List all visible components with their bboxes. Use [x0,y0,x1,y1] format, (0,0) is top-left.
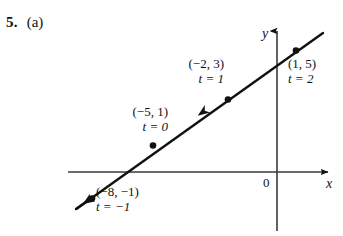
point-parameter-t-minus-1: t = −1 [96,199,184,214]
line-lower-tip [76,201,88,210]
point-label-t-2: (1, 5) t = 2 [288,56,342,86]
data-point-t-0 [150,142,157,149]
y-axis-label: y [262,26,268,42]
point-coordinates-t-1: (−2, 3) [152,56,224,71]
direction-arrow-icon [186,112,203,124]
point-parameter-t-0: t = 0 [96,119,168,134]
point-coordinates-t-2: (1, 5) [288,56,342,71]
x-axis-label: x [326,176,332,192]
data-point-t-minus-1 [89,195,96,202]
point-parameter-t-2: t = 2 [288,71,342,86]
point-coordinates-t-minus-1: (−8, −1) [96,184,184,199]
point-label-t-0: (−5, 1) t = 0 [96,104,168,134]
point-coordinates-t-0: (−5, 1) [96,104,168,119]
origin-label: 0 [263,175,270,191]
data-point-t-2 [293,47,300,54]
point-label-t-minus-1: (−8, −1) t = −1 [96,184,184,214]
point-label-t-1: (−2, 3) t = 1 [152,56,224,86]
figure-root: 5. (a) (−2, 3) [0,0,343,236]
point-parameter-t-1: t = 1 [152,71,224,86]
data-point-t-1 [225,96,232,103]
